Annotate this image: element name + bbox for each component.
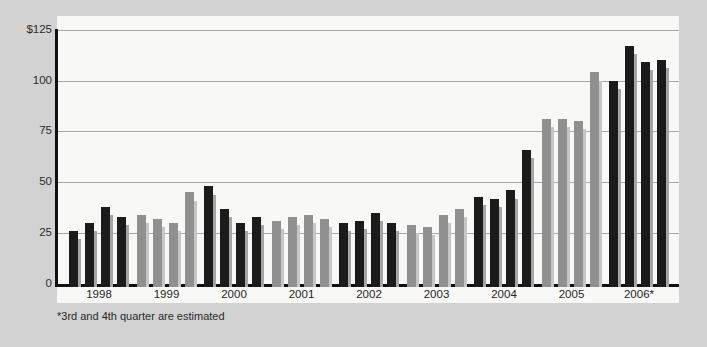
bar-2002-q3 bbox=[371, 213, 383, 287]
y-axis-line bbox=[55, 29, 58, 287]
bar-2001-q4 bbox=[320, 219, 332, 287]
y-axis-label-75: 75 bbox=[8, 124, 52, 136]
bar-fill bbox=[252, 217, 261, 287]
bar-2000-q3 bbox=[236, 223, 248, 287]
bars-2005 bbox=[542, 30, 602, 287]
x-axis-label-2005: 2005 bbox=[559, 287, 585, 303]
bars-2006 bbox=[609, 30, 669, 287]
bar-fill bbox=[490, 199, 499, 287]
y-axis-label-50: 50 bbox=[8, 175, 52, 187]
bar-fill bbox=[272, 221, 281, 287]
bar-2003-q4 bbox=[455, 209, 467, 287]
bar-fill bbox=[371, 213, 380, 287]
year-group-2006: 2006* bbox=[609, 30, 669, 303]
bar-fill bbox=[558, 119, 567, 287]
bar-fill bbox=[236, 223, 245, 287]
year-group-2004: 2004 bbox=[474, 30, 534, 303]
bar-fill bbox=[304, 215, 313, 287]
bars-2000 bbox=[204, 30, 264, 287]
y-axis-label-0: 0 bbox=[8, 277, 52, 289]
bar-fill bbox=[320, 219, 329, 287]
bar-fill bbox=[657, 60, 666, 287]
bar-1999-q2 bbox=[153, 219, 165, 287]
bar-fill bbox=[204, 186, 213, 287]
bar-2004-q1 bbox=[474, 197, 486, 287]
x-axis-label-2001: 2001 bbox=[289, 287, 315, 303]
y-axis-label-25: 25 bbox=[8, 226, 52, 238]
bar-fill bbox=[455, 209, 464, 287]
bar-2002-q1 bbox=[339, 223, 351, 287]
bar-2001-q1 bbox=[272, 221, 284, 287]
bar-fill bbox=[69, 231, 78, 287]
year-group-2001: 2001 bbox=[272, 30, 332, 303]
year-group-2005: 2005 bbox=[542, 30, 602, 303]
bar-2003-q1 bbox=[407, 225, 419, 287]
bar-fill bbox=[117, 217, 126, 287]
y-axis-label-100: 100 bbox=[8, 74, 52, 86]
bar-2005-q2 bbox=[558, 119, 570, 287]
bar-1998-q2 bbox=[85, 223, 97, 287]
year-group-1998: 1998 bbox=[69, 30, 129, 303]
bar-2006-q4 bbox=[657, 60, 669, 287]
bar-2006-q2 bbox=[625, 46, 637, 287]
year-group-2000: 2000 bbox=[204, 30, 264, 303]
bar-2000-q4 bbox=[252, 217, 264, 287]
bar-fill bbox=[185, 192, 194, 287]
bars-2003 bbox=[407, 30, 467, 287]
x-axis-label-2002: 2002 bbox=[356, 287, 382, 303]
bar-1999-q1 bbox=[137, 215, 149, 287]
bar-fill bbox=[423, 227, 432, 287]
bars-2004 bbox=[474, 30, 534, 287]
bar-fill bbox=[590, 72, 599, 287]
bar-fill bbox=[137, 215, 146, 287]
bar-2004-q2 bbox=[490, 199, 502, 287]
bar-1998-q3 bbox=[101, 207, 113, 287]
bar-fill bbox=[169, 223, 178, 287]
chart-page: 199819992000200120022003200420052006* $1… bbox=[0, 0, 707, 347]
bar-2005-q4 bbox=[590, 72, 602, 287]
bar-fill bbox=[542, 119, 551, 287]
bar-fill bbox=[625, 46, 634, 287]
year-group-2003: 2003 bbox=[407, 30, 467, 303]
bar-fill bbox=[574, 121, 583, 287]
bar-2006-q1 bbox=[609, 81, 621, 287]
bar-fill bbox=[474, 197, 483, 287]
bar-2002-q4 bbox=[387, 223, 399, 287]
year-group-1999: 1999 bbox=[137, 30, 197, 303]
y-axis-label-125: $125 bbox=[8, 23, 52, 35]
bar-2004-q4 bbox=[522, 150, 534, 287]
x-axis-baseline bbox=[57, 284, 679, 287]
x-axis-label-2003: 2003 bbox=[424, 287, 450, 303]
bar-2003-q3 bbox=[439, 215, 451, 287]
bar-2002-q2 bbox=[355, 221, 367, 287]
bar-1998-q1 bbox=[69, 231, 81, 287]
bar-2000-q1 bbox=[204, 186, 216, 287]
x-axis-label-2004: 2004 bbox=[491, 287, 517, 303]
bars-2002 bbox=[339, 30, 399, 287]
bar-fill bbox=[522, 150, 531, 287]
bar-fill bbox=[339, 223, 348, 287]
x-axis-label-1999: 1999 bbox=[154, 287, 180, 303]
bar-fill bbox=[355, 221, 364, 287]
bar-groups-container: 199819992000200120022003200420052006* bbox=[69, 30, 669, 303]
bar-fill bbox=[220, 209, 229, 287]
bar-fill bbox=[387, 223, 396, 287]
x-axis-label-2006: 2006* bbox=[624, 287, 654, 303]
bar-fill bbox=[288, 217, 297, 287]
bar-fill bbox=[439, 215, 448, 287]
plot-area: 199819992000200120022003200420052006* bbox=[57, 16, 679, 303]
bar-fill bbox=[101, 207, 110, 287]
bar-1999-q4 bbox=[185, 192, 197, 287]
bars-1999 bbox=[137, 30, 197, 287]
bar-fill bbox=[641, 62, 650, 287]
bar-fill bbox=[407, 225, 416, 287]
bar-fill bbox=[609, 81, 618, 287]
bar-2004-q3 bbox=[506, 190, 518, 287]
bar-2001-q3 bbox=[304, 215, 316, 287]
year-group-2002: 2002 bbox=[339, 30, 399, 303]
bar-fill bbox=[153, 219, 162, 287]
bar-2005-q3 bbox=[574, 121, 586, 287]
bar-1998-q4 bbox=[117, 217, 129, 287]
bar-fill bbox=[506, 190, 515, 287]
bar-2005-q1 bbox=[542, 119, 554, 287]
